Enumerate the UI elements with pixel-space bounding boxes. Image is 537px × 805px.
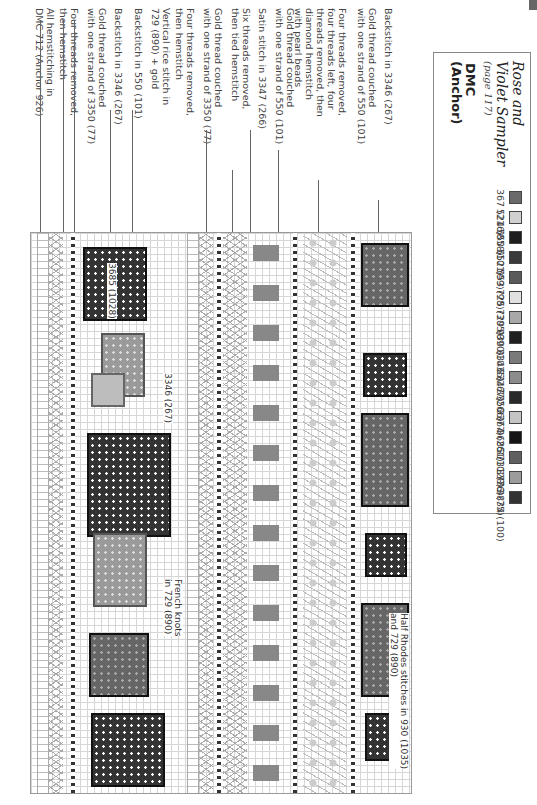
- key-row: 3350 (77): [438, 389, 528, 407]
- swatch-caret-icon: [509, 431, 522, 444]
- label-half-rhodes: Half Rhodes stitches in 930 (1035)and 72…: [389, 613, 409, 769]
- violet-flower-motif: [365, 533, 407, 577]
- satin-stitch-band: [253, 233, 279, 793]
- label-3346: 3346 (267): [163, 373, 173, 423]
- violet-leaf-motif: [361, 243, 409, 307]
- key-row-label: 3834 (100): [495, 489, 506, 542]
- callout-four-threads-1: Four threads removed,then hemstitch: [58, 8, 80, 116]
- key-row: 725 (305): [438, 289, 528, 307]
- key-row: 3731 (76): [438, 449, 528, 467]
- violet-flower-motif: [363, 353, 407, 397]
- swatch-triangle-icon: [509, 211, 522, 224]
- key-row: 3347 (266): [438, 369, 528, 387]
- violet-leaf-motif: [361, 413, 409, 507]
- leaf-motif: [93, 533, 147, 607]
- swatch-circle-icon: [509, 231, 522, 244]
- swatch-plus-icon: [509, 291, 522, 304]
- gold-couched-line: [351, 233, 355, 793]
- key-row: 729 (890): [438, 309, 528, 327]
- color-key-panel: Rose and Violet Sampler (page 117) DMC (…: [433, 52, 531, 514]
- key-row: 553 (98): [438, 269, 528, 287]
- label-french-knots: French knotsin 729 (890): [163, 579, 183, 636]
- swatch-arrow-icon: [509, 311, 522, 324]
- rose-motif: [91, 713, 165, 787]
- key-header-anchor: (Anchor): [449, 61, 464, 125]
- swatch-square-icon: [509, 351, 522, 364]
- bud-motif: [89, 633, 149, 697]
- callout-leader-line: [378, 200, 379, 232]
- key-row: 3834 (100): [438, 489, 528, 507]
- tied-hemstitch-band: [223, 233, 247, 793]
- swatch-triangle-white-icon: [509, 331, 522, 344]
- swatch-dot-icon: [509, 251, 522, 264]
- key-title-line1: Rose and: [510, 61, 526, 126]
- key-row: 367 (216): [438, 189, 528, 207]
- swatch-solid-icon: [509, 491, 522, 504]
- diamond-hemstitch-band: [303, 233, 347, 793]
- gold-couched-line: [217, 233, 221, 793]
- callout-leader-line: [40, 20, 41, 232]
- four-threads-hemstitch-band: [199, 233, 213, 793]
- four-threads-hemstitch-band: [49, 233, 63, 793]
- callout-leader-line: [110, 110, 111, 232]
- rose-motif: [87, 433, 171, 537]
- swatch-star-icon: [509, 471, 522, 484]
- callout-gold-thread-4: Gold thread couchedwith one strand of 55…: [356, 8, 378, 144]
- key-row: 930 (1035): [438, 329, 528, 347]
- swatch-bar-icon: [509, 411, 522, 424]
- swatch-dot-icon: [509, 271, 522, 284]
- gold-couched-line: [71, 233, 75, 793]
- hemstitch-band: [37, 233, 49, 793]
- callout-gold-thread-2: Gold thread couchedwith one strand of 33…: [202, 8, 224, 144]
- callout-leader-line: [63, 20, 64, 232]
- key-row: 3346 (267): [438, 349, 528, 367]
- gold-couched-line: [293, 233, 297, 793]
- callout-backstitch-550: Backstitch in 550 (101): [133, 8, 144, 119]
- callout-backstitch-3346-1: Backstitch in 3346 (267): [113, 8, 124, 125]
- key-header-dmc: DMC: [463, 63, 478, 96]
- key-row: 3733 (75): [438, 469, 528, 487]
- label-3685: 3685 (1028): [107, 263, 117, 319]
- callout-backstitch-3346-2: Backstitch in 3346 (267): [383, 8, 394, 125]
- callout-leader-line: [278, 150, 279, 232]
- callout-four-threads-2: Four threads removed,then hemstitch: [174, 8, 196, 116]
- callout-vertical-rice-stitch: Vertical rice stitch in729 (890) + gold: [150, 8, 172, 105]
- key-title-line2: Violet Sampler: [494, 61, 510, 166]
- callout-diamond-hemstitch: Four threads removed,four threads left, …: [293, 8, 348, 117]
- swatch-x-icon: [509, 191, 522, 204]
- key-title: Rose and Violet Sampler (page 117) DMC (…: [434, 53, 530, 163]
- callout-leader-line: [206, 130, 207, 232]
- key-row: 550 (101): [438, 229, 528, 247]
- key-row: 552 (99): [438, 249, 528, 267]
- callout-leader-line: [232, 170, 233, 232]
- callout-six-threads: Six threads removed,then tied hemstitch: [230, 8, 252, 110]
- hemstitch-band: [187, 233, 199, 793]
- callout-leader-line: [318, 180, 319, 232]
- key-row: 3685 (1028): [438, 429, 528, 447]
- callout-leader-line: [132, 110, 133, 232]
- page-edge-marker: [529, 0, 537, 10]
- swatch-slash-icon: [509, 391, 522, 404]
- key-row: 524 (858): [438, 209, 528, 227]
- key-row: 3364 (261): [438, 409, 528, 427]
- key-page-ref: (page 117): [483, 61, 494, 116]
- callout-gold-thread-1: Gold thread couchedwith one strand of 33…: [86, 8, 108, 144]
- callout-leader-line: [250, 130, 251, 232]
- callout-all-hemstitching: All hemstitching inDMC 712 (Anchor 926): [34, 8, 56, 116]
- leaf-motif: [91, 373, 125, 407]
- swatch-slash-icon: [509, 451, 522, 464]
- callout-leader-line: [74, 20, 75, 232]
- cross-stitch-chart: 3685 (1028) 3346 (267) French knotsin 72…: [30, 232, 412, 794]
- swatch-x-icon: [509, 371, 522, 384]
- callout-satin-stitch: Satin stitch in 3347 (266): [257, 8, 268, 129]
